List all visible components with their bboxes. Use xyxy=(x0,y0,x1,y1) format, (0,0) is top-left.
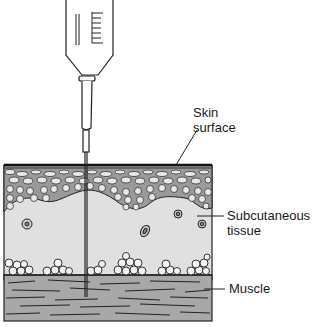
label-skin-surface: Skin surface xyxy=(193,105,236,135)
label-subcutaneous-line2: tissue xyxy=(227,223,310,238)
diagram-canvas xyxy=(0,0,314,327)
tissue-block xyxy=(4,165,212,321)
label-skin-line2: surface xyxy=(193,120,236,135)
label-subcutaneous-tissue: Subcutaneous tissue xyxy=(227,208,310,238)
label-subcutaneous-line1: Subcutaneous xyxy=(227,208,310,223)
label-skin-line1: Skin xyxy=(193,105,236,120)
label-muscle: Muscle xyxy=(229,281,270,296)
